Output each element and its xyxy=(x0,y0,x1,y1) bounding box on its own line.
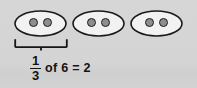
oval-outline-icon xyxy=(72,10,125,37)
counter-dot xyxy=(43,18,52,27)
oval-group-3 xyxy=(130,10,183,37)
oval-group-2 xyxy=(72,10,125,37)
fraction-numerator: 1 xyxy=(32,55,39,67)
counter-dot xyxy=(29,18,38,27)
equation: 1 3 of 6 = 2 xyxy=(30,55,91,82)
oval-outline-icon xyxy=(130,10,183,37)
counter-dot xyxy=(87,18,96,27)
counter-dot xyxy=(145,18,154,27)
oval-group-1 xyxy=(14,10,67,37)
counter-dot xyxy=(101,18,110,27)
counter-dot xyxy=(159,18,168,27)
equation-remainder: of 6 = 2 xyxy=(45,62,91,75)
fraction-one-third: 1 3 xyxy=(30,55,41,82)
fraction-of-a-set-figure: 1 3 of 6 = 2 xyxy=(0,0,197,88)
fraction-denominator: 3 xyxy=(32,70,39,82)
oval-outline-icon xyxy=(14,10,67,37)
brace-icon xyxy=(14,38,68,51)
